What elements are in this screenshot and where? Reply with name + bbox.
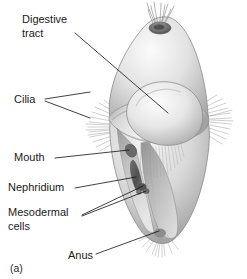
label-mesodermal-cells-line1: Mesodermal <box>8 206 69 218</box>
label-digestive-tract-line2: tract <box>22 27 43 39</box>
label-mouth: Mouth <box>14 151 45 163</box>
label-anus-line1: Anus <box>68 249 94 261</box>
label-cilia-line1: Cilia <box>14 93 36 105</box>
label-digestive-tract-line1: Digestive <box>22 13 67 25</box>
panel-letter: (a) <box>10 262 23 274</box>
figure-panel: Digestive tract Cilia Mouth Nephridium M… <box>0 0 247 279</box>
anus-opening <box>155 229 166 237</box>
trochophore-larva-illustration: Digestive tract Cilia Mouth Nephridium M… <box>0 0 247 279</box>
label-mesodermal-cells-line2: cells <box>8 220 31 232</box>
label-anus: Anus <box>68 249 94 261</box>
label-mouth-line1: Mouth <box>14 151 45 163</box>
label-nephridium: Nephridium <box>8 181 64 193</box>
label-nephridium-line1: Nephridium <box>8 181 64 193</box>
label-cilia: Cilia <box>14 93 36 105</box>
